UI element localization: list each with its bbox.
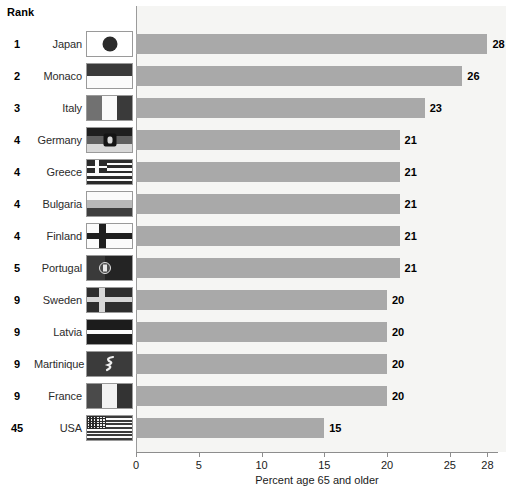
rank-value: 9 — [0, 390, 34, 402]
country-name: USA — [34, 422, 84, 434]
bar — [136, 354, 387, 374]
flag-france-icon — [86, 383, 133, 409]
bar-value-label: 28 — [492, 34, 504, 54]
x-tick-label: 5 — [196, 459, 202, 471]
rank-value: 9 — [0, 358, 34, 370]
flag-greece-icon — [86, 159, 133, 185]
flag-bulgaria-icon — [86, 191, 133, 217]
bar-value-label: 23 — [430, 98, 442, 118]
flag-cell — [86, 415, 133, 441]
rank-value: 1 — [0, 38, 34, 50]
flag-cell — [86, 159, 133, 185]
table-row: 4Bulgaria — [0, 188, 136, 220]
flag-cell — [86, 191, 133, 217]
country-name: Sweden — [34, 294, 84, 306]
x-tick-label: 15 — [318, 459, 330, 471]
country-name: Martinique — [34, 358, 84, 370]
table-row: 9Martinique — [0, 348, 136, 380]
flag-sweden-icon — [86, 287, 133, 313]
bar-value-label: 26 — [467, 66, 479, 86]
x-tick — [136, 452, 137, 457]
flag-cell — [86, 127, 133, 153]
bar — [136, 194, 400, 214]
x-tick — [262, 452, 263, 457]
table-row: 4Finland — [0, 220, 136, 252]
bar-value-label: 21 — [405, 194, 417, 214]
flag-cell — [86, 63, 133, 89]
flag-cell — [86, 383, 133, 409]
country-name: Japan — [34, 38, 84, 50]
rank-value: 45 — [0, 422, 34, 434]
rank-value: 9 — [0, 326, 34, 338]
x-tick-label: 28 — [481, 459, 493, 471]
bar — [136, 130, 400, 150]
table-row: 9France — [0, 380, 136, 412]
bar — [136, 290, 387, 310]
table-row: 5Portugal — [0, 252, 136, 284]
rank-value: 9 — [0, 294, 34, 306]
bar — [136, 322, 387, 342]
table-row: 4Greece — [0, 156, 136, 188]
bar-value-label: 21 — [405, 258, 417, 278]
rank-value: 4 — [0, 230, 34, 242]
flag-monaco-icon — [86, 63, 133, 89]
bar-value-label: 21 — [405, 130, 417, 150]
x-tick-label: 10 — [255, 459, 267, 471]
flag-germany-icon — [86, 127, 133, 153]
x-tick — [324, 452, 325, 457]
table-row: 4Germany — [0, 124, 136, 156]
bar-value-label: 20 — [392, 354, 404, 374]
country-name: Bulgaria — [34, 198, 84, 210]
bar — [136, 162, 400, 182]
rank-value: 5 — [0, 262, 34, 274]
table-row: 9Sweden — [0, 284, 136, 316]
country-name: Italy — [34, 102, 84, 114]
country-name: Latvia — [34, 326, 84, 338]
bar-value-label: 20 — [392, 322, 404, 342]
country-name: France — [34, 390, 84, 402]
country-name: Finland — [34, 230, 84, 242]
bar — [136, 34, 487, 54]
flag-finland-icon — [86, 223, 133, 249]
x-tick — [387, 452, 388, 457]
rank-value: 4 — [0, 166, 34, 178]
x-axis-title: Percent age 65 and older — [136, 474, 498, 486]
rank-value: 3 — [0, 102, 34, 114]
ranking-bar-chart: Rank 1Japan2Monaco3Italy4Germany4Greece4… — [0, 0, 506, 488]
bar — [136, 226, 400, 246]
flag-japan-icon — [86, 31, 133, 57]
bar-value-label: 20 — [392, 290, 404, 310]
table-row: 2Monaco — [0, 60, 136, 92]
table-row: 45USA — [0, 412, 136, 444]
flag-cell — [86, 95, 133, 121]
flag-cell — [86, 287, 133, 313]
x-tick — [487, 452, 488, 457]
flag-cell — [86, 223, 133, 249]
bar — [136, 258, 400, 278]
x-axis-line — [136, 452, 498, 453]
country-label-column: 1Japan2Monaco3Italy4Germany4Greece4Bulga… — [0, 0, 136, 488]
x-tick — [450, 452, 451, 457]
x-tick-label: 0 — [133, 459, 139, 471]
rank-value: 2 — [0, 70, 34, 82]
bar-value-label: 20 — [392, 386, 404, 406]
table-row: 1Japan — [0, 28, 136, 60]
bar — [136, 418, 324, 438]
table-row: 3Italy — [0, 92, 136, 124]
flag-latvia-icon — [86, 319, 133, 345]
bar — [136, 66, 462, 86]
country-name: Monaco — [34, 70, 84, 82]
flag-portugal-icon — [86, 255, 133, 281]
country-name: Greece — [34, 166, 84, 178]
bar — [136, 98, 425, 118]
country-name: Germany — [34, 134, 84, 146]
country-name: Portugal — [34, 262, 84, 274]
flag-cell — [86, 255, 133, 281]
x-tick-label: 25 — [444, 459, 456, 471]
bar-value-label: 21 — [405, 162, 417, 182]
x-tick-label: 20 — [381, 459, 393, 471]
rank-value: 4 — [0, 198, 34, 210]
x-tick — [199, 452, 200, 457]
flag-cell — [86, 31, 133, 57]
flag-cell — [86, 351, 133, 377]
